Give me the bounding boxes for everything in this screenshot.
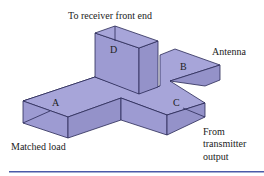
- bottom-rule: [9, 171, 264, 173]
- port-d-label: D: [110, 44, 117, 55]
- port-a-label: A: [52, 97, 60, 108]
- transmitter-label-line3: output: [203, 151, 229, 162]
- transmitter-label-line2: transmitter: [203, 138, 247, 149]
- transmitter-label-line1: From: [203, 126, 225, 137]
- port-c-label: C: [173, 97, 180, 108]
- port-b-label: B: [180, 61, 187, 72]
- antenna-label: Antenna: [212, 46, 246, 57]
- receiver-label: To receiver front end: [68, 10, 152, 21]
- matched-load-label: Matched load: [11, 141, 66, 152]
- magic-t-diagram: D B A C To receiver front end Antenna Ma…: [0, 0, 264, 176]
- arm-d-side-face: [139, 41, 158, 94]
